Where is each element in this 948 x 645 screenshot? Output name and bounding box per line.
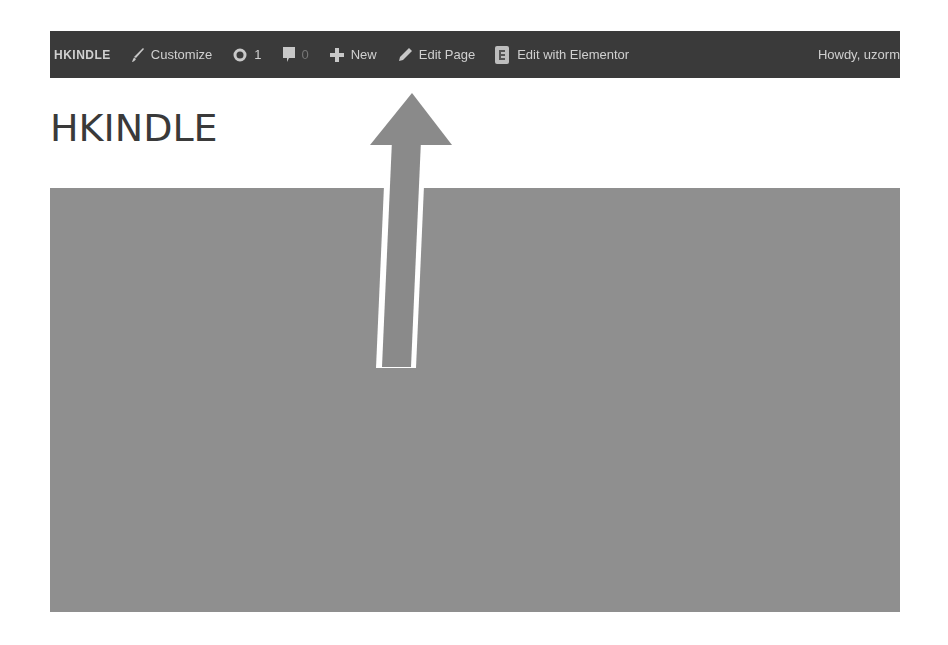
pencil-icon [397, 47, 413, 63]
comment-bubble-icon [282, 46, 296, 64]
customize-label: Customize [151, 47, 212, 62]
admin-bar-new[interactable]: New [319, 31, 387, 78]
edit-elementor-label: Edit with Elementor [517, 47, 629, 62]
admin-bar-edit-elementor[interactable]: Edit with Elementor [485, 31, 639, 78]
site-title[interactable]: HKINDLE [50, 104, 218, 152]
comments-count: 0 [302, 47, 309, 62]
plus-icon [329, 47, 345, 63]
brush-icon [131, 47, 145, 63]
site-name-label: HKINDLE [54, 48, 111, 62]
edit-page-label: Edit Page [419, 47, 475, 62]
admin-bar-customize[interactable]: Customize [121, 31, 222, 78]
updates-icon [232, 47, 248, 63]
updates-count: 1 [254, 47, 261, 62]
hero-section [50, 188, 900, 612]
elementor-icon [495, 46, 509, 64]
admin-bar-comments[interactable]: 0 [272, 31, 319, 78]
admin-bar-updates[interactable]: 1 [222, 31, 271, 78]
admin-bar-my-account[interactable]: Howdy, uzorm [808, 31, 900, 78]
admin-bar: HKINDLE Customize 1 0 [50, 31, 900, 78]
admin-bar-site-name[interactable]: HKINDLE [50, 31, 121, 78]
new-label: New [351, 47, 377, 62]
howdy-label: Howdy, uzorm [818, 47, 900, 62]
admin-bar-edit-page[interactable]: Edit Page [387, 31, 485, 78]
